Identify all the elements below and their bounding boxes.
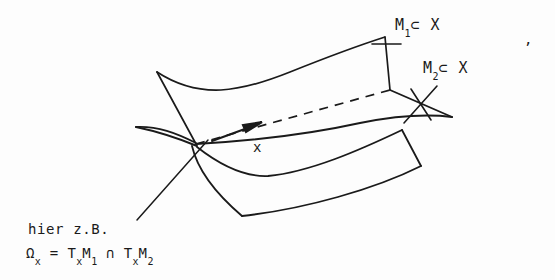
m1-base: M bbox=[395, 16, 405, 34]
lower-bottom-curve bbox=[242, 166, 421, 216]
manifold-diagram-svg bbox=[0, 0, 555, 280]
formula-omega-sub: x bbox=[35, 256, 41, 267]
formula-t1-sub: x bbox=[76, 256, 82, 267]
formula-equals: = bbox=[50, 246, 59, 260]
annotation-omega-formula: Ωx = TxM1 ∩ TxM2 bbox=[26, 246, 153, 264]
formula-omega: Ω bbox=[26, 246, 35, 260]
formula-t1: T bbox=[67, 246, 76, 260]
m2-front-curve bbox=[196, 116, 452, 144]
m1-right-edge bbox=[385, 37, 390, 90]
m2-base: M bbox=[423, 59, 433, 77]
surface-m2 bbox=[136, 90, 452, 146]
lower-right-edge bbox=[402, 130, 421, 166]
formula-t2-sub: x bbox=[133, 256, 139, 267]
formula-m1-sub: 1 bbox=[91, 256, 97, 267]
label-m1-subset-x: M1⊂ X bbox=[395, 18, 441, 36]
math-figure-canvas: M1⊂ X M2⊂ X x hier z.B. Ωx = TxM1 ∩ TxM2… bbox=[0, 0, 555, 280]
m2-relation: ⊂ X bbox=[439, 59, 469, 77]
annotation-hier-zb: hier z.B. bbox=[28, 222, 109, 236]
formula-m1: M bbox=[82, 246, 91, 260]
surface-m1-upper bbox=[157, 37, 390, 144]
formula-t2: T bbox=[124, 246, 133, 260]
lower-left-curve bbox=[192, 146, 242, 216]
formula-m2-sub: 2 bbox=[147, 256, 153, 267]
formula-cap: ∩ bbox=[106, 246, 115, 260]
lower-inner-curve bbox=[197, 130, 402, 176]
label-m2-subset-x: M2⊂ X bbox=[423, 61, 469, 79]
m2-subscript: 2 bbox=[433, 71, 439, 82]
hier-leader-line bbox=[137, 140, 208, 220]
m1-top-edge bbox=[157, 37, 385, 90]
label-point-x: x bbox=[253, 140, 261, 154]
m1-relation: ⊂ X bbox=[411, 16, 441, 34]
trailing-punctuation-mark: , bbox=[524, 32, 532, 46]
leader-hier-annotation bbox=[137, 140, 208, 220]
leader-m2 bbox=[404, 86, 437, 123]
m1-subscript: 1 bbox=[405, 28, 411, 39]
